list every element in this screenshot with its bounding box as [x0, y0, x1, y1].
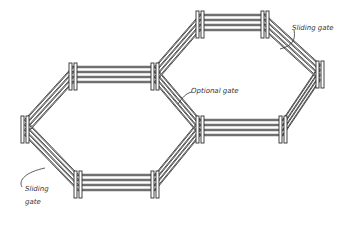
- fence-rail: [155, 121, 200, 176]
- fence-post: [79, 171, 82, 198]
- fence-rail: [155, 21, 200, 73]
- fence-post: [151, 63, 154, 90]
- fence-rail: [283, 64, 320, 119]
- label-sliding-gate-bottom-1: Sliding: [25, 185, 49, 194]
- fence-rail: [25, 124, 78, 179]
- fence-rail: [155, 26, 200, 78]
- fence-rail: [25, 68, 73, 121]
- fence-rail: [155, 76, 200, 129]
- fence-post: [266, 11, 269, 38]
- fence-post: [284, 116, 287, 143]
- label-sliding-gate-top: Sliding gate: [292, 24, 334, 33]
- fence-rail: [25, 71, 73, 124]
- fence-rail: [155, 31, 200, 83]
- fence-post: [156, 171, 159, 198]
- fence-rail: [25, 72, 73, 125]
- fence-rail: [265, 30, 320, 80]
- fence-post: [321, 61, 324, 88]
- fence-rail: [25, 134, 78, 189]
- fence-post: [26, 116, 29, 143]
- fence-rail: [25, 81, 73, 134]
- fence-rail: [155, 134, 200, 189]
- fence-post: [69, 63, 72, 90]
- fence-rail: [155, 73, 200, 126]
- label-sliding-gate-bottom-2: gate: [25, 198, 41, 207]
- fence-post: [201, 116, 204, 143]
- fence-rail: [155, 129, 200, 184]
- fence-rail: [155, 126, 200, 181]
- fence-rail: [25, 121, 78, 176]
- fence-post: [201, 11, 204, 38]
- fence-rail: [283, 71, 320, 126]
- fence-rail: [155, 124, 200, 179]
- fence-rail: [283, 74, 320, 129]
- fence-rail: [25, 76, 73, 129]
- fence-post: [316, 61, 319, 88]
- fence-rail: [155, 16, 200, 68]
- fence-rail: [155, 72, 200, 125]
- fence-rail: [25, 120, 78, 175]
- fence-rail: [25, 83, 73, 136]
- fence-rail: [155, 119, 200, 174]
- fence-rail: [155, 15, 200, 67]
- fence-rail: [25, 130, 78, 185]
- fence-post: [261, 11, 264, 38]
- fence-rail: [25, 135, 78, 190]
- fence-rail: [155, 71, 200, 124]
- fence-post: [74, 171, 77, 198]
- fence-post: [151, 171, 154, 198]
- fence-rail: [155, 78, 200, 131]
- fence-rail: [155, 131, 200, 186]
- fence-rail: [155, 19, 200, 71]
- fence-post: [156, 63, 159, 90]
- fence-rail: [155, 14, 200, 66]
- fence-rail: [25, 129, 78, 184]
- fence-rail: [25, 67, 73, 120]
- fence-rail: [155, 25, 200, 77]
- fence-post: [196, 11, 199, 38]
- fence-rail: [283, 69, 320, 124]
- fence-rail: [265, 26, 320, 76]
- fence-rail: [155, 136, 200, 191]
- fence-rail: [25, 131, 78, 186]
- fence-post: [74, 63, 77, 90]
- fence-post: [279, 116, 282, 143]
- fence-rail: [25, 77, 73, 130]
- fence-rail: [283, 76, 320, 131]
- fence-rail: [265, 29, 320, 79]
- fence-rail: [155, 29, 200, 81]
- fence-rail: [265, 15, 320, 65]
- fence-rail: [283, 66, 320, 121]
- fence-rail: [155, 77, 200, 130]
- fence-rail: [265, 14, 320, 64]
- fence-rail: [155, 24, 200, 76]
- fence-rail: [25, 78, 73, 131]
- fence-post: [196, 116, 199, 143]
- fence-rail: [283, 79, 320, 134]
- fence-rail: [283, 81, 320, 136]
- fence-rail: [25, 66, 73, 119]
- fence-rail: [155, 30, 200, 82]
- fence-rail: [155, 20, 200, 72]
- fence-rail: [25, 136, 78, 191]
- fence-rail: [25, 82, 73, 135]
- fence-rail: [265, 31, 320, 81]
- fence-rail: [25, 73, 73, 126]
- fence-post: [21, 116, 24, 143]
- fence-rail: [25, 126, 78, 181]
- label-optional-gate: Optional gate: [191, 87, 239, 96]
- fence-panels: [25, 14, 320, 190]
- fence-diagram: [0, 0, 347, 227]
